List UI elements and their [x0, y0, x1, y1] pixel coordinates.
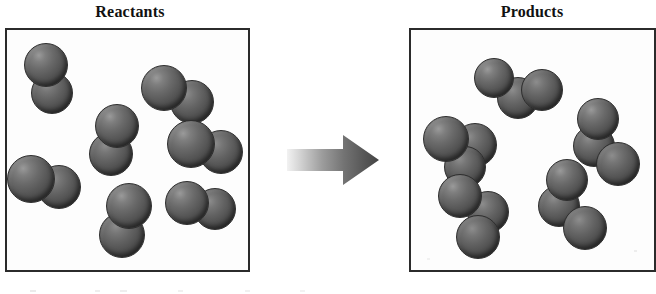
atom-sphere: [438, 174, 482, 218]
atom-sphere: [563, 206, 607, 250]
atom-sphere: [596, 142, 640, 186]
atom-sphere: [95, 104, 139, 148]
atom-sphere: [423, 116, 469, 162]
reactants-box: [5, 28, 250, 272]
atom-sphere: [165, 181, 209, 225]
atom-sphere: [546, 159, 588, 201]
scan-artifact: [427, 258, 430, 260]
products-title: Products: [462, 3, 602, 21]
atom-sphere: [521, 69, 563, 111]
atom-sphere: [7, 155, 55, 203]
atom-sphere: [577, 98, 619, 140]
atom-sphere: [456, 215, 500, 259]
reaction-arrow: [287, 134, 379, 186]
scan-artifact: [95, 290, 100, 292]
scan-artifact: [245, 290, 250, 292]
scan-artifact: [120, 290, 127, 292]
atom-sphere: [167, 120, 215, 168]
scan-artifact: [30, 290, 36, 292]
scan-artifact: [300, 290, 305, 292]
scan-artifact: [634, 250, 637, 252]
atom-sphere: [474, 58, 514, 98]
products-box: [409, 28, 656, 272]
atom-sphere: [24, 43, 68, 87]
atom-sphere: [141, 65, 187, 111]
reactants-title: Reactants: [60, 3, 200, 21]
atom-sphere: [106, 183, 152, 229]
scan-artifact: [178, 290, 183, 292]
